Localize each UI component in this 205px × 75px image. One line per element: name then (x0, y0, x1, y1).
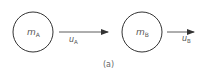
mass-b-label: mB (136, 27, 149, 38)
mass-a-label: mA (27, 27, 41, 38)
velocity-b: uB (167, 32, 194, 44)
velocity-a-label: uA (69, 35, 78, 45)
body-a: mA (13, 12, 53, 52)
collision-diagram: mA uA mB uB (a) (0, 0, 205, 75)
velocity-a: uA (59, 32, 108, 45)
body-b: mB (122, 12, 162, 52)
figure-caption: (a) (103, 60, 114, 69)
velocity-b-label: uB (182, 34, 191, 44)
